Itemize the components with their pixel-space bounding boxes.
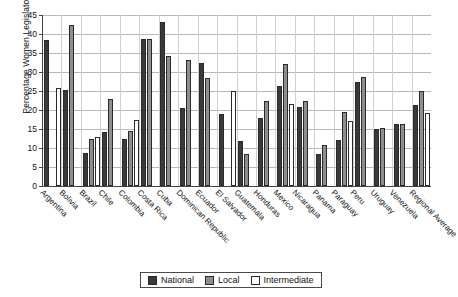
bar-national [297,107,302,186]
bar-group [257,15,276,186]
y-tick-label: 15 [7,124,37,134]
bar-national [355,82,360,187]
bar-group [101,15,120,186]
bar-group [413,15,431,186]
bar-national [258,118,263,186]
bar-group [62,15,81,186]
bar-national [336,140,341,186]
legend-label: Local [218,275,240,285]
y-tick-label: 5 [7,162,37,172]
bar-group [335,15,354,186]
bar-local [361,77,366,186]
bar-group [218,15,237,186]
bar-local [166,56,171,186]
bar-national [122,139,127,186]
bar-local [69,25,74,187]
bar-group [315,15,334,186]
bar-intermediate [289,104,294,186]
y-tick-label: 35 [7,48,37,58]
bar-national [238,141,243,186]
bar-local [283,64,288,186]
x-tick-label: Chile [97,188,116,207]
bar-group [354,15,373,186]
bar-local [108,99,113,186]
bar-group [393,15,412,186]
bar-local [128,131,133,186]
bar-local [147,39,152,186]
bar-local [380,128,385,186]
legend-label: Intermediate [264,275,314,285]
bar-national [199,63,204,186]
bar-group [296,15,315,186]
bar-local [264,101,269,186]
bar-local [205,78,210,186]
bar-intermediate [56,88,61,186]
bar-national [394,124,399,186]
bar-intermediate [425,113,430,186]
bar-group [121,15,140,186]
bar-national [374,129,379,186]
bar-national [277,86,282,186]
bar-local [89,139,94,186]
bar-group [374,15,393,186]
bar-local [342,112,347,186]
y-tick-label: 40 [7,29,37,39]
bar-group [43,15,62,186]
legend-swatch-national [148,276,157,285]
x-axis-labels: ArgentinaBoliviaBrazilChileColombiaCosta… [42,188,430,263]
bar-national [44,40,49,186]
y-tick-label: 25 [7,86,37,96]
bar-group [82,15,101,186]
bar-national [63,90,68,186]
bar-national [219,114,224,186]
bar-national [160,22,165,186]
bar-group [160,15,179,186]
bar-national [83,153,88,186]
bar-intermediate [95,137,100,186]
bar-local [419,91,424,186]
bar-local [244,154,249,186]
y-tick-label: 10 [7,143,37,153]
y-tick-label: 0 [7,181,37,191]
legend-item: National [148,275,194,285]
bar-national [141,39,146,186]
y-tick-label: 30 [7,67,37,77]
bar-national [102,132,107,186]
y-tick-label: 20 [7,105,37,115]
bar-local [186,60,191,186]
bar-group [276,15,295,186]
bar-intermediate [348,121,353,186]
chart-legend: NationalLocalIntermediate [140,272,322,288]
legend-item: Local [205,275,240,285]
bar-groups [43,15,431,186]
bar-local [303,101,308,187]
y-tick-mark [39,186,43,187]
bar-national [413,105,418,186]
bar-group [140,15,159,186]
bar-national [180,108,185,186]
y-tick-label: 45 [7,10,37,20]
bar-group [199,15,218,186]
bar-group [179,15,198,186]
bar-local [322,145,327,186]
bar-intermediate [134,120,139,187]
bar-group [238,15,257,186]
legend-swatch-intermediate [251,276,260,285]
legend-item: Intermediate [251,275,314,285]
bar-intermediate [231,91,236,186]
bar-local [400,124,405,186]
plot-area: 051015202530354045 [42,15,431,187]
legend-swatch-local [205,276,214,285]
legend-label: National [161,275,194,285]
bar-national [316,154,321,186]
